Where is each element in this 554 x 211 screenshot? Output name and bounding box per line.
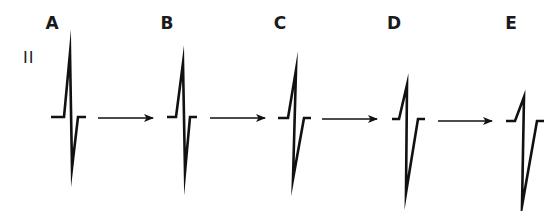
qrs-complex-a	[51, 53, 86, 168]
qrs-complex-b	[167, 63, 197, 172]
qrs-complex-c	[278, 70, 311, 179]
ecg-progression-diagram: II A B C D E	[0, 0, 554, 211]
waveforms-canvas	[0, 0, 554, 211]
qrs-complex-e	[506, 97, 544, 206]
qrs-complex-d	[392, 85, 425, 193]
